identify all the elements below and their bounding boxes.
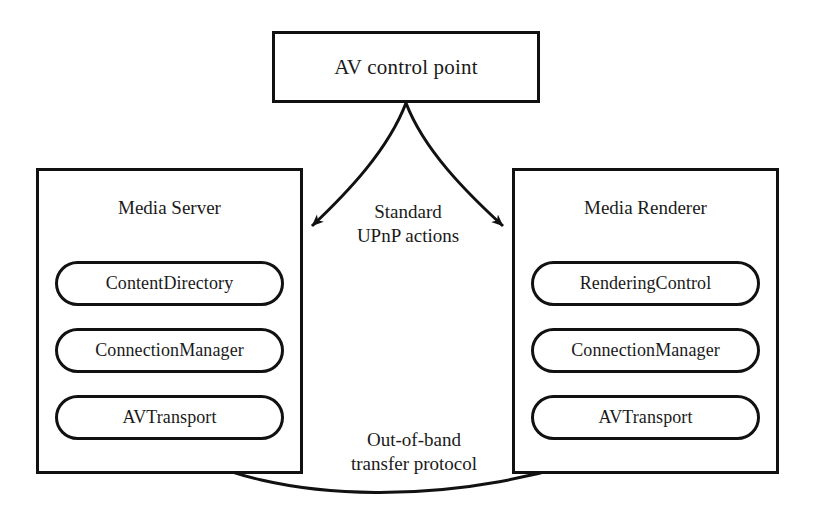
service-label: AVTransport — [598, 407, 692, 428]
service-label: ConnectionManager — [95, 340, 244, 361]
service-av-transport: AVTransport — [55, 395, 284, 440]
service-label: RenderingControl — [580, 273, 712, 294]
service-connection-manager: ConnectionManager — [531, 328, 760, 373]
service-rendering-control: RenderingControl — [531, 261, 760, 306]
media-renderer-service-list: RenderingControl ConnectionManager AVTra… — [531, 261, 760, 440]
out-of-band-transfer-label: Out-of-band transfer protocol — [326, 428, 502, 477]
media-server-node: Media Server ContentDirectory Connection… — [36, 168, 303, 474]
media-server-title: Media Server — [39, 197, 300, 219]
upnp-av-architecture-diagram: AV control point Media Server ContentDir… — [0, 0, 815, 518]
service-label: ContentDirectory — [106, 273, 234, 294]
standard-upnp-actions-label: Standard UPnP actions — [326, 200, 490, 249]
media-server-service-list: ContentDirectory ConnectionManager AVTra… — [55, 261, 284, 440]
service-label: ConnectionManager — [571, 340, 720, 361]
media-renderer-title: Media Renderer — [515, 197, 776, 219]
av-control-point-label: AV control point — [334, 55, 478, 80]
service-connection-manager: ConnectionManager — [55, 328, 284, 373]
media-renderer-node: Media Renderer RenderingControl Connecti… — [512, 168, 779, 474]
service-label: AVTransport — [122, 407, 216, 428]
av-control-point-node: AV control point — [272, 31, 540, 103]
service-av-transport: AVTransport — [531, 395, 760, 440]
service-content-directory: ContentDirectory — [55, 261, 284, 306]
